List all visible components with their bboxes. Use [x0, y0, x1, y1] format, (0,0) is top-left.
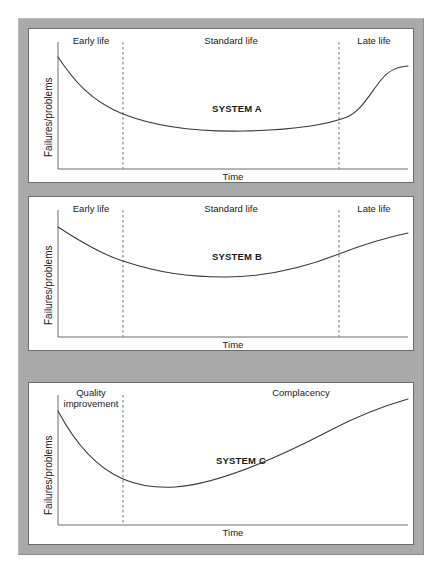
zone-label-quality-c: Quality [76, 387, 106, 398]
x-axis-label-c: Time [223, 527, 244, 538]
zone-label-complacency-c: Complacency [272, 387, 330, 398]
figure-root: Failures/problems Early life Standard li… [0, 0, 442, 573]
zone-label-standard-life-a: Standard life [204, 35, 257, 46]
zone-label-late-life-a: Late life [357, 35, 390, 46]
zone-label-improvement-c: improvement [64, 398, 119, 409]
x-axis-label-b: Time [223, 339, 244, 350]
y-axis-label-b: Failures/problems [43, 246, 54, 325]
chart-panel-system-a: Failures/problems Early life Standard li… [28, 28, 414, 183]
system-label-a: SYSTEM A [212, 103, 262, 114]
zone-label-early-life-a: Early life [73, 35, 109, 46]
chart-panel-system-c: Failures/problems Quality improvement Co… [28, 382, 414, 545]
x-axis-label-a: Time [223, 171, 244, 182]
curve-system-c [58, 399, 408, 487]
plot-svg-system-b [29, 197, 414, 351]
curve-system-a [58, 57, 408, 131]
plot-area-system-b [29, 197, 413, 350]
system-label-c: SYSTEM C [216, 455, 266, 466]
system-label-b: SYSTEM B [212, 251, 262, 262]
y-axis-label-a: Failures/problems [43, 78, 54, 157]
zone-label-early-life-b: Early life [73, 203, 109, 214]
chart-panel-system-b: Failures/problems Early life Standard li… [28, 196, 414, 351]
y-axis-label-c: Failures/problems [43, 436, 54, 515]
zone-label-late-life-b: Late life [357, 203, 390, 214]
zone-label-standard-life-b: Standard life [204, 203, 257, 214]
